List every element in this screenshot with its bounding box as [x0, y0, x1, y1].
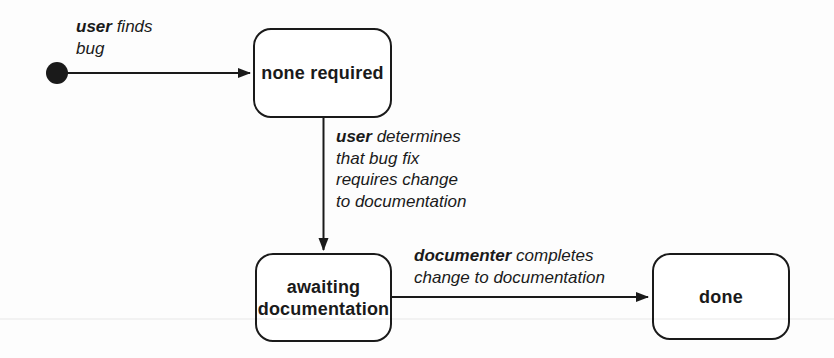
state-diagram: none required awaiting documentation don… — [0, 0, 834, 358]
state-awaiting-documentation-label: awaiting documentation — [258, 276, 390, 320]
state-done: done — [652, 253, 790, 340]
state-none-required: none required — [253, 28, 392, 118]
scan-artifact-line — [0, 318, 834, 320]
state-done-label: done — [699, 286, 743, 308]
state-none-required-label: none required — [261, 62, 384, 84]
transition-label-user-determines-change: user determines that bug fix requires ch… — [336, 126, 466, 213]
transition-label-user-finds-bug: user finds bug — [76, 16, 153, 59]
transition-actor: user — [336, 127, 372, 146]
transition-actor: documenter — [414, 246, 511, 265]
transition-label-documenter-completes: documenter completes change to documenta… — [414, 245, 605, 288]
transition-actor: user — [76, 17, 112, 36]
state-awaiting-documentation: awaiting documentation — [255, 253, 392, 342]
